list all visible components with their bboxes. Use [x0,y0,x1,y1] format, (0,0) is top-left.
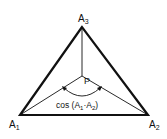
vertex-label-a1: A1 [9,119,20,131]
angle-label: cos (A1·A2) [56,100,98,111]
tetrahedral-angle-diagram: A3 A1 A2 P cos (A1·A2) [0,0,167,139]
vertex-label-a2: A2 [149,119,160,131]
angle-arc [64,88,100,96]
vertex-label-a3: A3 [78,13,89,25]
center-label-p: P [84,76,90,86]
